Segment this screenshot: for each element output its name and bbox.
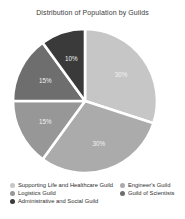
legend-column-1: Supporting Life and Healthcare GuildLogi… [10, 181, 118, 205]
legend-marker-icon [120, 183, 125, 188]
legend-label: Logistics Guild [18, 190, 56, 196]
pie-slice-percent-label: 15% [39, 118, 52, 125]
pie-slice-percent-label: 30% [115, 71, 128, 78]
legend-column-2: Engineer's GuildGuild of Scientists [120, 181, 174, 205]
legend-label: Administrative and Social Guild [18, 198, 98, 204]
legend: Supporting Life and Healthcare GuildLogi… [0, 181, 185, 205]
legend-item-guild-of-scientists: Guild of Scientists [120, 189, 174, 197]
legend-marker-icon [10, 199, 15, 204]
legend-item-supporting-life-and-healthcare-guild: Supporting Life and Healthcare Guild [10, 181, 118, 189]
pie-slice-percent-label: 10% [65, 55, 78, 62]
legend-label: Guild of Scientists [128, 190, 174, 196]
legend-marker-icon [120, 191, 125, 196]
legend-marker-icon [10, 183, 15, 188]
pie-slice-percent-label: 15% [39, 77, 52, 84]
legend-item-engineer-s-guild: Engineer's Guild [120, 181, 174, 189]
pie-slice-percent-label: 30% [92, 140, 105, 147]
legend-item-administrative-and-social-guild: Administrative and Social Guild [10, 197, 118, 205]
legend-label: Engineer's Guild [128, 182, 170, 188]
legend-marker-icon [10, 191, 15, 196]
legend-item-logistics-guild: Logistics Guild [10, 189, 118, 197]
chart-figure: Distribution of Population by Guilds 30%… [0, 0, 185, 219]
legend-label: Supporting Life and Healthcare Guild [18, 182, 113, 188]
